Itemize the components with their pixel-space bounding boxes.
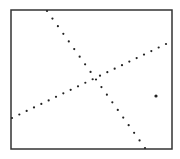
line-dot [73,48,75,50]
line-dot [122,116,124,118]
line-dot [62,92,64,94]
line-dot [158,46,160,48]
line-dot [128,61,130,63]
line-dot [26,110,28,112]
line-dot [165,43,167,45]
line-dot [84,63,86,65]
line-dot [111,101,113,103]
isolated-points-group [154,94,157,97]
dotted-lines-group [11,10,167,149]
line-dot [144,147,146,149]
line-dot [62,33,64,35]
line-dot [100,86,102,88]
line-dot [40,103,42,105]
line-dot [143,53,145,55]
line-dot [77,85,79,87]
outlier-point [154,94,157,97]
line-dot [138,139,140,141]
line-dot [133,132,135,134]
line-dot [55,96,57,98]
line-dot [121,64,123,66]
line-dot [68,40,70,42]
line-dot [150,50,152,52]
steep-dotted-line [46,10,146,149]
line-dot [51,18,53,20]
line-dot [46,10,48,12]
shallow-dotted-line [11,43,167,119]
line-dot [95,78,97,80]
line-dot [48,99,50,101]
dotted-lines-diagram [0,0,180,159]
line-dot [11,117,13,119]
line-dot [92,78,94,80]
line-dot [89,71,91,73]
line-dot [136,57,138,59]
diagram-frame [11,10,172,149]
line-dot [128,124,130,126]
line-dot [99,75,101,77]
line-dot [57,25,59,27]
line-dot [84,82,86,84]
line-dot [106,71,108,73]
line-dot [33,106,35,108]
line-dot [18,113,20,115]
line-dot [117,109,119,111]
line-dot [79,56,81,58]
line-dot [70,89,72,91]
line-dot [106,94,108,96]
line-dot [114,68,116,70]
